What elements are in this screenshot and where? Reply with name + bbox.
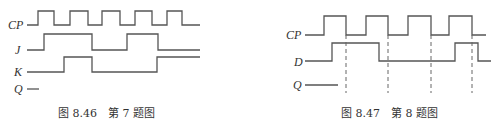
- waveform-k: [27, 57, 200, 72]
- signal-label-cp: CP: [8, 18, 24, 32]
- figure-caption: 图 8.46 第 7 题图: [58, 104, 155, 120]
- signal-label-d: D: [293, 55, 303, 69]
- waveform-d: [305, 43, 491, 61]
- signal-label-k: K: [13, 65, 23, 79]
- signal-label-q: Q: [14, 82, 23, 96]
- timing-diagram-d: CP D Q: [250, 0, 503, 100]
- figure-8-46: CP J K Q 图 8.46 第 7 题图: [0, 0, 250, 100]
- signal-label-cp: CP: [286, 28, 302, 42]
- timing-diagram-jk: CP J K Q: [0, 0, 250, 100]
- signal-label-j: J: [15, 43, 21, 57]
- waveform-cp: [305, 16, 486, 35]
- figure-8-47: CP D Q 图 8.47 第 8 题图: [250, 0, 503, 100]
- signal-label-q: Q: [293, 78, 302, 92]
- waveform-cp: [27, 11, 200, 25]
- waveform-j: [27, 34, 200, 50]
- figure-caption: 图 8.47 第 8 题图: [341, 104, 438, 120]
